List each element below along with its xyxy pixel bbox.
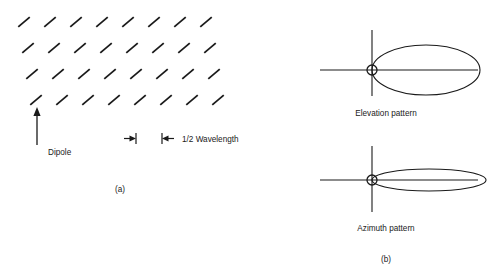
radiation-pattern-plots: Elevation patternAzimuth pattern: [320, 30, 486, 233]
dipole-element: [104, 69, 116, 79]
dipole-element: [70, 17, 82, 27]
dipole-element: [182, 69, 194, 79]
dipole-element: [78, 69, 90, 79]
dipole-element: [100, 43, 112, 53]
panel-b-caption: (b): [381, 255, 391, 264]
dipole-element: [52, 69, 64, 79]
azimuth-pattern-plot: Azimuth pattern: [320, 146, 486, 233]
dipole-element: [186, 95, 198, 105]
dipole-element: [56, 95, 68, 105]
dipole-element: [108, 95, 120, 105]
dipole-element: [178, 43, 190, 53]
dipole-pointer-arrow: [33, 107, 40, 145]
dipole-element: [22, 43, 34, 53]
dipole-element: [82, 95, 94, 105]
dipole-element: [208, 69, 220, 79]
dipole-element: [44, 17, 56, 27]
dipole-element: [212, 95, 224, 105]
dipole-array-grid: [18, 17, 224, 105]
dipole-element: [122, 17, 134, 27]
half-wavelength-dimension: [124, 133, 174, 144]
dipole-element: [130, 69, 142, 79]
figure-canvas: Dipole 1/2 Wavelength (a) Elevation patt…: [0, 0, 491, 273]
antenna-array-figure: Dipole 1/2 Wavelength (a) Elevation patt…: [0, 0, 491, 273]
dipole-element: [148, 17, 160, 27]
panel-a-caption: (a): [115, 185, 125, 194]
dipole-element: [152, 43, 164, 53]
elevation-pattern-label: Elevation pattern: [355, 109, 417, 118]
dipole-element: [74, 43, 86, 53]
dipole-element: [96, 17, 108, 27]
dipole-element: [160, 95, 172, 105]
dipole-element: [204, 43, 216, 53]
dipole-element: [134, 95, 146, 105]
azimuth-pattern-label: Azimuth pattern: [357, 224, 415, 233]
dipole-element: [48, 43, 60, 53]
elevation-pattern-plot: Elevation pattern: [320, 30, 480, 118]
dipole-element: [126, 43, 138, 53]
dipole-element: [26, 69, 38, 79]
dipole-element: [200, 17, 212, 27]
dipole-element: [156, 69, 168, 79]
dipole-label: Dipole: [48, 148, 72, 157]
dipole-element: [30, 95, 42, 105]
dipole-element: [174, 17, 186, 27]
dipole-element: [18, 17, 30, 27]
half-wavelength-label: 1/2 Wavelength: [182, 135, 239, 144]
